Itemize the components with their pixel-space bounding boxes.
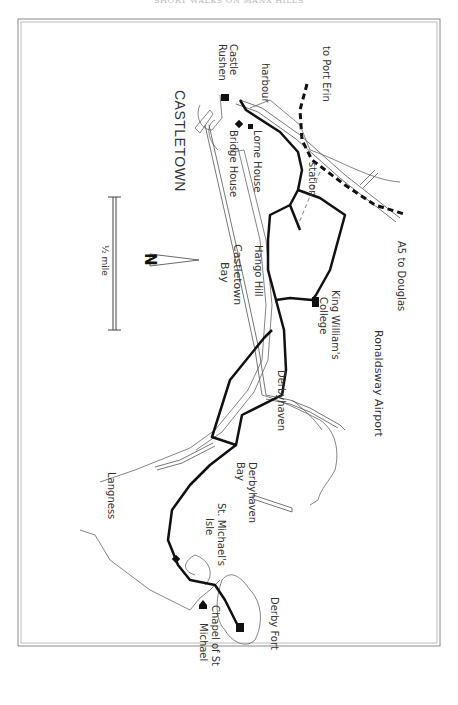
- chapel-icon: [199, 600, 207, 609]
- label-station: station: [307, 162, 318, 196]
- label-harbour: harbour: [260, 63, 271, 103]
- label-ronaldsway-airport: Ronaldsway Airport: [372, 330, 385, 437]
- label-castle: Castle: [228, 44, 239, 75]
- castle-rushen-icon: [221, 94, 229, 101]
- label-derby-fort: Derby Fort: [269, 597, 280, 650]
- label-rushen: Rushen: [217, 44, 228, 81]
- label-derbyhaven-bay-2: Bay: [235, 462, 246, 481]
- derby-fort-icon: [236, 623, 244, 632]
- label-castletown-bay-1: Castletown: [231, 244, 244, 305]
- walk-map: CASTLETOWN Castle Rushen harbour to Port…: [0, 0, 458, 705]
- label-castletown: CASTLETOWN: [172, 90, 188, 192]
- label-lorne-house: Lorne House: [252, 130, 263, 192]
- label-michael: Michael: [198, 623, 209, 661]
- label-a5-to-douglas: A5 to Douglas: [396, 241, 407, 311]
- label-isle: Isle: [204, 518, 215, 535]
- label-to-port-erin: to Port Erin: [321, 46, 332, 102]
- label-st-michaels: St. Michael's: [216, 503, 227, 566]
- label-scale: ½ mile: [100, 245, 110, 276]
- label-derbyhaven: Derbyhaven: [276, 370, 287, 431]
- map-labels: CASTLETOWN Castle Rushen harbour to Port…: [100, 44, 407, 666]
- label-castletown-bay-2: Bay: [218, 262, 231, 283]
- label-king-williams: King William's: [330, 290, 341, 360]
- langness-building-icon: [172, 555, 180, 563]
- lorne-house-icon: [248, 124, 253, 129]
- label-langness: Langness: [106, 472, 117, 519]
- king-williams-college-icon: [312, 297, 319, 307]
- bridge-house-icon: [235, 120, 243, 128]
- label-hango-hill: Hango Hill: [253, 245, 264, 296]
- label-bridge-house: Bridge House: [228, 130, 239, 197]
- building-symbols: [172, 94, 319, 632]
- label-college: College: [318, 297, 329, 334]
- label-derbyhaven-bay-1: Derbyhaven: [247, 462, 258, 523]
- label-north: N: [141, 253, 159, 266]
- label-chapel-of-st: Chapel of St: [210, 605, 221, 666]
